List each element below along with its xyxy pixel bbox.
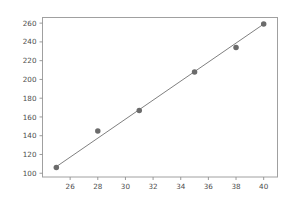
x-tick-label: 30 bbox=[121, 182, 131, 191]
x-tick-label: 34 bbox=[176, 182, 186, 191]
axes-frame bbox=[43, 18, 278, 178]
y-tick-label: 200 bbox=[23, 75, 37, 84]
data-point bbox=[261, 21, 267, 27]
x-tick-label: 38 bbox=[231, 182, 241, 191]
y-tick-label: 100 bbox=[23, 169, 37, 178]
scatter-plot: 2628303234363840 10012014016018020022024… bbox=[0, 0, 296, 206]
x-tick-label: 36 bbox=[204, 182, 214, 191]
data-point bbox=[54, 165, 60, 171]
x-tick-label: 28 bbox=[93, 182, 103, 191]
data-point bbox=[95, 128, 101, 134]
y-tick-label: 260 bbox=[23, 19, 37, 28]
y-tick-label: 120 bbox=[23, 150, 37, 159]
y-tick-label: 220 bbox=[23, 56, 37, 65]
data-point bbox=[233, 45, 239, 51]
y-tick-label: 240 bbox=[23, 37, 37, 46]
y-tick-label: 180 bbox=[23, 94, 37, 103]
x-tick-label: 32 bbox=[149, 182, 158, 191]
x-tick-label: 26 bbox=[66, 182, 76, 191]
y-tick-label: 160 bbox=[23, 113, 37, 122]
y-tick-label: 140 bbox=[23, 131, 37, 140]
x-tick-label: 40 bbox=[259, 182, 269, 191]
figure-canvas: 2628303234363840 10012014016018020022024… bbox=[0, 0, 296, 206]
data-point bbox=[137, 108, 143, 114]
data-point bbox=[192, 69, 198, 75]
